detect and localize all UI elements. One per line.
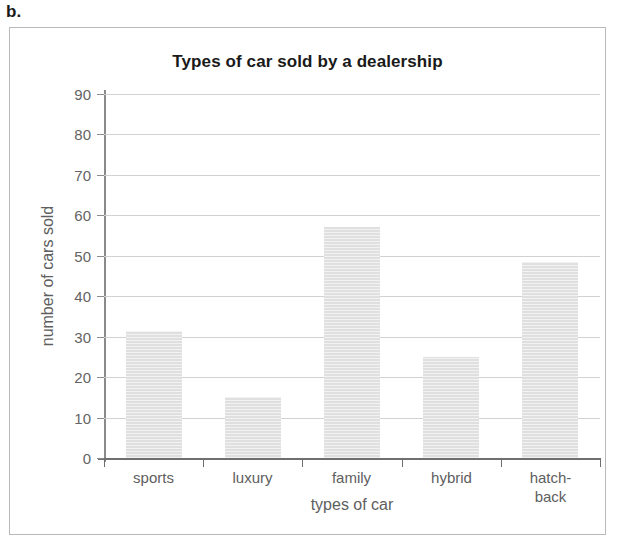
x-axis-label-line: hybrid	[402, 468, 501, 487]
x-axis-tick-mark	[203, 458, 204, 467]
y-axis-tick-label: 80	[74, 126, 91, 143]
y-axis-tick-mark	[97, 377, 104, 378]
question-label: b.	[6, 2, 22, 22]
y-axis-tick-mark	[97, 337, 104, 338]
chart-title: Types of car sold by a dealership	[10, 52, 605, 72]
y-axis-tick-label: 0	[83, 450, 91, 467]
x-axis-tick-label: family	[302, 468, 401, 487]
y-axis-tick-label: 40	[74, 288, 91, 305]
bar	[324, 227, 380, 458]
bar	[126, 331, 182, 458]
x-axis-tick-mark	[104, 458, 105, 467]
x-axis-label-line: luxury	[203, 468, 302, 487]
y-axis-line	[104, 90, 106, 462]
chart-figure-frame: Types of car sold by a dealership number…	[9, 27, 606, 535]
plot-area: 0102030405060708090 sportsluxuryfamilyhy…	[104, 94, 600, 458]
x-axis-label-line: sports	[104, 468, 203, 487]
y-axis-tick-mark	[97, 175, 104, 176]
y-axis-tick-mark	[97, 215, 104, 216]
y-axis-tick-mark	[97, 256, 104, 257]
x-axis-label-line: family	[302, 468, 401, 487]
x-axis-tick-mark	[600, 458, 601, 467]
y-axis-tick-mark	[97, 418, 104, 419]
x-axis-tick-label: sports	[104, 468, 203, 487]
y-axis-tick-mark	[97, 458, 104, 459]
y-axis-tick-label: 10	[74, 409, 91, 426]
y-axis-tick-label: 20	[74, 369, 91, 386]
y-axis-tick-mark	[97, 94, 104, 95]
y-axis-tick-label: 70	[74, 166, 91, 183]
y-axis-tick-label: 50	[74, 247, 91, 264]
x-axis-title: types of car	[104, 496, 600, 514]
gridline	[104, 94, 600, 95]
y-axis-tick-mark	[97, 134, 104, 135]
bar	[522, 262, 578, 458]
y-axis-tick-label: 30	[74, 328, 91, 345]
gridline	[104, 175, 600, 176]
bar	[423, 357, 479, 458]
y-axis-tick-mark	[97, 296, 104, 297]
y-axis-tick-label: 60	[74, 207, 91, 224]
x-axis-tick-mark	[402, 458, 403, 467]
gridline	[104, 134, 600, 135]
y-axis-title: number of cars sold	[39, 206, 57, 347]
gridline	[104, 215, 600, 216]
x-axis-tick-mark	[302, 458, 303, 467]
x-axis-label-line: hatch-	[501, 468, 600, 487]
bar	[225, 397, 281, 458]
x-axis-tick-label: hybrid	[402, 468, 501, 487]
x-axis-line	[98, 458, 600, 460]
x-axis-tick-mark	[501, 458, 502, 467]
x-axis-tick-label: luxury	[203, 468, 302, 487]
y-axis-tick-label: 90	[74, 86, 91, 103]
